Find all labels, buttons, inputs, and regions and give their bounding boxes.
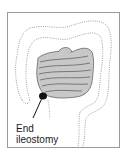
label-end: End: [16, 124, 34, 134]
small-intestine: [37, 48, 94, 99]
stoma-marker: [39, 93, 47, 100]
pointer-line: [33, 98, 42, 118]
label-ileostomy: ileostomy: [16, 135, 58, 145]
